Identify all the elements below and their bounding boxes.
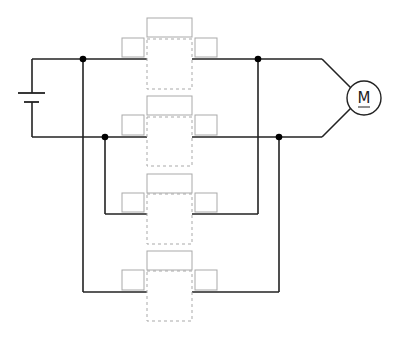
motor-lead-bottom [322, 108, 351, 137]
component-drop-zone[interactable] [147, 39, 192, 89]
right-terminal-slot[interactable] [195, 193, 217, 212]
block-label-slot[interactable] [147, 251, 192, 270]
component-drop-zone[interactable] [147, 117, 192, 166]
circuit-diagram: M [0, 0, 395, 344]
left-terminal-slot[interactable] [122, 115, 144, 135]
block-label-slot[interactable] [147, 18, 192, 37]
switch-block-2[interactable] [122, 96, 217, 166]
right-terminal-slot[interactable] [195, 270, 217, 290]
block-label-slot[interactable] [147, 174, 192, 193]
switch-block-4[interactable] [122, 251, 217, 321]
motor-lead-top [322, 59, 351, 88]
motor: M [347, 81, 381, 115]
switch-block-1[interactable] [122, 18, 217, 89]
junction-dot [276, 134, 283, 141]
battery-source [18, 59, 45, 137]
block-label-slot[interactable] [147, 96, 192, 115]
junction-dot [255, 56, 262, 63]
motor-label: M [358, 89, 371, 107]
left-terminal-slot[interactable] [122, 270, 144, 290]
component-drop-zone[interactable] [147, 194, 192, 244]
left-terminal-slot[interactable] [122, 38, 144, 57]
right-terminal-slot[interactable] [195, 38, 217, 57]
left-terminal-slot[interactable] [122, 193, 144, 212]
right-terminal-slot[interactable] [195, 115, 217, 135]
switch-block-3[interactable] [122, 174, 217, 244]
component-drop-zone[interactable] [147, 271, 192, 321]
junction-dot [80, 56, 87, 63]
junction-dot [102, 134, 109, 141]
